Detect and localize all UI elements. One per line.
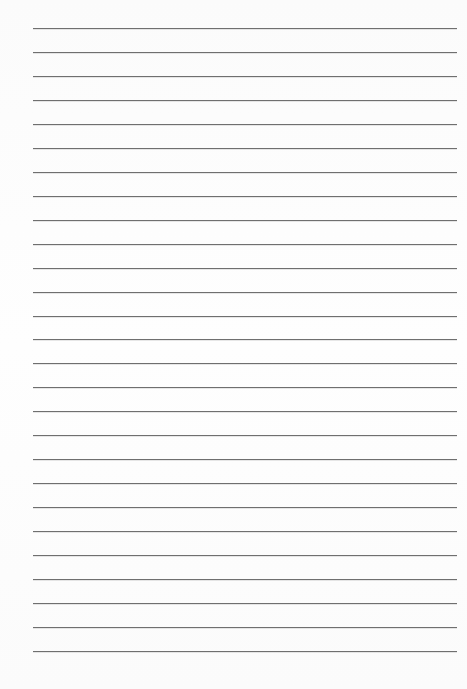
ruled-line [33, 244, 457, 245]
ruled-line [33, 268, 457, 269]
ruled-line [33, 435, 457, 436]
ruled-line [33, 531, 457, 532]
ruled-line [33, 579, 457, 580]
ruled-line [33, 28, 457, 29]
ruled-line [33, 100, 457, 101]
ruled-line [33, 196, 457, 197]
ruled-line [33, 555, 457, 556]
ruled-line [33, 292, 457, 293]
ruled-line [33, 507, 457, 508]
ruled-line [33, 124, 457, 125]
ruled-line [33, 459, 457, 460]
ruled-line [33, 316, 457, 317]
ruled-line [33, 220, 457, 221]
ruled-line [33, 411, 457, 412]
ruled-line [33, 172, 457, 173]
ruled-line [33, 651, 457, 652]
ruled-line [33, 483, 457, 484]
ruled-line [33, 603, 457, 604]
ruled-line [33, 363, 457, 364]
ruled-line [33, 52, 457, 53]
ruled-line [33, 627, 457, 628]
ruled-line [33, 76, 457, 77]
ruled-line [33, 387, 457, 388]
ruled-line [33, 339, 457, 340]
lined-paper-sheet [0, 0, 467, 689]
ruled-line [33, 148, 457, 149]
